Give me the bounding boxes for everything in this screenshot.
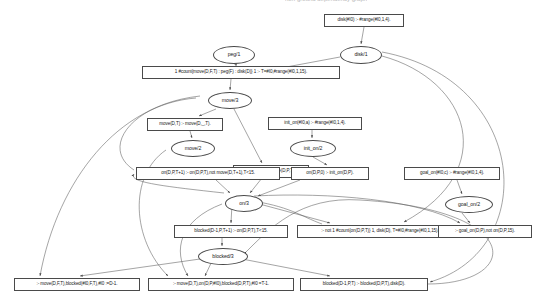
graph-edge: [252, 202, 330, 223]
graph-edge: [190, 131, 192, 138]
graph-edge: [230, 79, 231, 90]
rule-node-rule_move_blocked_disk[interactable]: :- move(D,T),on(D,P,#I0),blocked(D,P,T),…: [148, 278, 294, 291]
graph-edge: [120, 96, 200, 170]
rule-node-rule_init_on_range[interactable]: init_on(#I0,a) :- #range(#I0,1,4).: [268, 117, 362, 130]
graph-edge: [382, 56, 463, 222]
graph-edge: [199, 109, 216, 116]
graph-edge: [216, 180, 230, 193]
graph-edge: [80, 259, 200, 276]
predicate-node-blocked3[interactable]: blocked/3: [198, 248, 248, 265]
rule-node-rule_on_init[interactable]: on(D,P,0) :- init_on(D,P).: [291, 167, 369, 180]
rule-node-rule_move2_from_move3[interactable]: move(D,T) :- move(D,_,T).: [147, 118, 223, 131]
graph-edge: [361, 27, 364, 44]
diagram-title: non-ground dependency graph: [285, 0, 367, 2]
graph-edge: [250, 178, 262, 193]
rule-node-rule_goal_on_range[interactable]: goal_on(#I0,c) :- #range(#I0,1,4).: [404, 167, 500, 180]
predicate-node-init_on2[interactable]: init_on/2: [290, 140, 336, 157]
graph-edges: [0, 0, 543, 306]
graph-edge: [313, 157, 327, 165]
graph-edge: [234, 109, 262, 163]
rule-node-rule_goal_constraint[interactable]: :- goal_on(D,P),not on(D,P,15).: [438, 225, 532, 238]
rule-node-rule_on_inertia[interactable]: on(D,P,T+1) :- on(D,P,T),not move(D,T+1)…: [136, 167, 280, 180]
graph-edge: [244, 200, 493, 284]
graph-edge: [180, 204, 222, 276]
rule-node-rule_move_blocked_from[interactable]: :- move(D,F,T),blocked(#I0,F,T),#I0 :=D-…: [14, 278, 140, 291]
graph-edge: [242, 259, 330, 276]
predicate-node-peg1[interactable]: peg/1: [213, 46, 255, 64]
predicate-node-disk1[interactable]: disk/1: [340, 46, 382, 64]
graph-edge: [254, 195, 460, 223]
graph-edge: [258, 180, 300, 196]
rule-node-rule_blocked_cascade[interactable]: blocked(D-1,P,T) :- blocked(D,P,T),disk(…: [300, 278, 428, 291]
predicate-node-goal_on2[interactable]: goal_on/2: [445, 196, 493, 213]
graph-edge: [462, 213, 470, 223]
rule-node-rule_disk_range[interactable]: disk(#I0) :- #range(#I0,1,4).: [324, 14, 404, 27]
dependency-graph-canvas: non-ground dependency graph peg/1disk/1m…: [0, 0, 543, 306]
predicate-node-on3[interactable]: on/3: [225, 195, 263, 212]
graph-edge: [457, 180, 462, 194]
rule-node-rule_move_choice[interactable]: 1 #count{move(D,F,T) : peg(F) : disk(D)}…: [142, 66, 340, 79]
predicate-node-move2[interactable]: move/2: [171, 140, 215, 157]
predicate-node-move3[interactable]: move/3: [208, 92, 252, 109]
rule-node-rule_blocked_on[interactable]: blocked(D-1,P,T+1) :- on(D,P,T),T<15.: [174, 225, 288, 238]
